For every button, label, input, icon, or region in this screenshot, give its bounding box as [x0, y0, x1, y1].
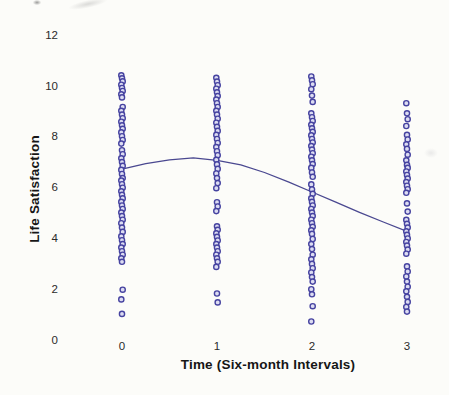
x-axis-title: Time (Six-month Intervals) [148, 357, 388, 372]
data-point [215, 300, 220, 305]
data-point [119, 259, 124, 264]
y-tick-label-4: 4 [24, 232, 58, 244]
data-point [404, 146, 409, 151]
data-point [404, 289, 409, 294]
x-tick-label-0: 0 [110, 340, 134, 352]
data-point [404, 264, 409, 269]
scatter-plot-figure: Life Satisfaction Time (Six-month Interv… [0, 0, 449, 395]
data-point [404, 101, 409, 106]
data-point [404, 190, 409, 195]
data-point [405, 117, 410, 122]
data-point [404, 201, 409, 206]
data-point [310, 279, 315, 284]
data-point [119, 141, 124, 146]
data-point [310, 304, 315, 309]
data-point [214, 209, 219, 214]
data-point [404, 279, 409, 284]
y-tick-label-0: 0 [24, 334, 58, 346]
data-point [119, 297, 124, 302]
data-point [309, 87, 314, 92]
data-point [119, 311, 124, 316]
data-point [405, 209, 410, 214]
data-point [309, 93, 314, 98]
y-tick-label-12: 12 [24, 29, 58, 41]
data-point [404, 309, 409, 314]
data-point [119, 95, 124, 100]
x-tick-label-3: 3 [395, 340, 419, 352]
data-point [310, 236, 315, 241]
x-tick-label-1: 1 [205, 340, 229, 352]
data-point [404, 251, 409, 256]
plot-area [0, 0, 449, 395]
data-point [215, 181, 220, 186]
data-point [404, 111, 409, 116]
data-point [310, 174, 315, 179]
fitted-curve [122, 158, 407, 232]
data-point [404, 274, 409, 279]
y-tick-label-8: 8 [24, 130, 58, 142]
y-tick-label-6: 6 [24, 181, 58, 193]
data-point [405, 299, 410, 304]
data-point [215, 259, 220, 264]
y-tick-label-2: 2 [24, 283, 58, 295]
data-point [310, 99, 315, 104]
data-point [120, 287, 125, 292]
data-point [404, 294, 409, 299]
data-point [309, 231, 314, 236]
data-point [405, 152, 410, 157]
y-tick-label-10: 10 [24, 80, 58, 92]
x-tick-label-2: 2 [300, 340, 324, 352]
data-point [309, 292, 314, 297]
data-point [404, 123, 409, 128]
data-point [214, 186, 219, 191]
data-point [309, 247, 314, 252]
data-point [214, 264, 219, 269]
data-point [309, 182, 314, 187]
data-point [309, 287, 314, 292]
data-point [214, 291, 219, 296]
data-point [309, 319, 314, 324]
